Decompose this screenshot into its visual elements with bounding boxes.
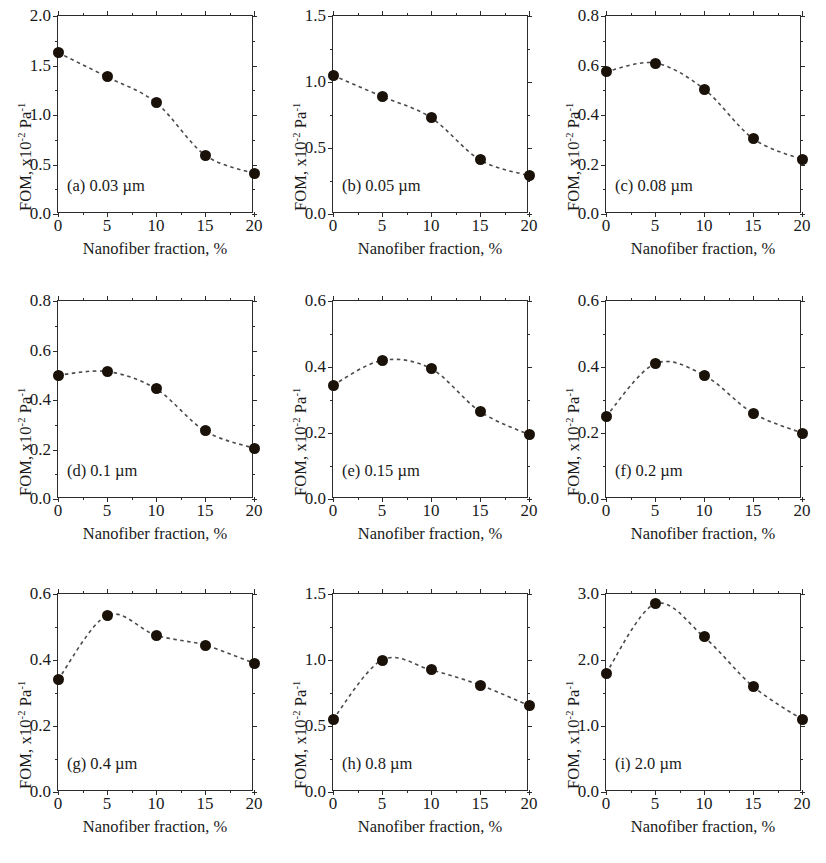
- y-axis-title-unit-exponent: -1: [291, 388, 302, 397]
- y-axis-tick: [53, 351, 58, 352]
- y-axis-tick-right: [527, 726, 532, 727]
- x-axis-minor-tick-top: [631, 13, 632, 16]
- data-point: [328, 714, 339, 725]
- x-axis-tick-label: 0: [329, 216, 338, 236]
- x-axis-tick-top: [802, 589, 803, 594]
- x-axis-minor-tick-top: [83, 591, 84, 594]
- x-axis-tick-top: [107, 589, 108, 594]
- x-axis-tick-label: 15: [745, 216, 762, 236]
- x-axis-tick-top: [606, 589, 607, 594]
- x-axis-tick-label: 10: [696, 216, 713, 236]
- x-axis-minor-tick: [407, 212, 408, 215]
- x-axis-tick-label: 5: [103, 501, 112, 521]
- x-axis-minor-tick-top: [407, 13, 408, 16]
- y-axis-title-unit-exponent: -1: [16, 103, 27, 112]
- x-axis-minor-tick-top: [680, 298, 681, 301]
- y-axis-tick-label: 0.6: [578, 56, 599, 76]
- y-axis-minor-tick: [330, 693, 333, 694]
- y-axis-tick-label: 0.4: [30, 650, 51, 670]
- x-axis-tick-label: 0: [329, 794, 338, 814]
- y-axis-title-main: FOM, x10: [16, 141, 35, 211]
- x-axis-title: Nanofiber fraction, %: [605, 239, 801, 259]
- y-axis-tick-right: [800, 66, 805, 67]
- panel-label-f: (f) 0.2 µm: [615, 461, 683, 481]
- x-axis-tick-label: 0: [602, 501, 611, 521]
- data-point: [748, 681, 759, 692]
- x-axis-minor-tick: [83, 212, 84, 215]
- chart-panel-c: FOM, x10-2 Pa-10.00.20.40.60.805101520(c…: [548, 0, 826, 285]
- x-axis-tick-label: 10: [148, 501, 165, 521]
- y-axis-tick-label: 1.0: [305, 72, 326, 92]
- y-axis-tick-right: [800, 594, 805, 595]
- x-axis-minor-tick: [358, 790, 359, 793]
- y-axis-tick: [328, 148, 333, 149]
- data-point: [200, 425, 211, 436]
- y-axis-title-exponent-units: -2: [564, 132, 575, 141]
- x-axis-tick-top: [156, 11, 157, 16]
- panel-label-g: (g) 0.4 µm: [67, 754, 137, 774]
- y-axis-title-unit: Pa: [291, 397, 310, 418]
- x-axis-tick-top: [107, 11, 108, 16]
- x-axis-tick-top: [606, 296, 607, 301]
- y-axis-minor-tick: [330, 115, 333, 116]
- y-axis-tick-right: [527, 148, 532, 149]
- y-axis-tick: [601, 433, 606, 434]
- x-axis-minor-tick-top: [230, 298, 231, 301]
- x-axis-tick-top: [382, 296, 383, 301]
- y-axis-minor-tick-right: [800, 334, 803, 335]
- x-axis-tick-label: 10: [423, 501, 440, 521]
- y-axis-title-unit-exponent: -1: [291, 681, 302, 690]
- y-axis-tick-right: [252, 351, 257, 352]
- x-axis-tick-label: 0: [54, 501, 63, 521]
- x-axis-minor-tick-top: [456, 13, 457, 16]
- y-axis-tick-right: [527, 660, 532, 661]
- y-axis-title-unit-exponent: -1: [564, 388, 575, 397]
- y-axis-minor-tick-right: [252, 425, 255, 426]
- x-axis-tick-top: [156, 296, 157, 301]
- x-axis-minor-tick-top: [680, 13, 681, 16]
- y-axis-title: FOM, x10-2 Pa-1: [291, 11, 313, 211]
- y-axis-title-unit-exponent: -1: [16, 681, 27, 690]
- y-axis-minor-tick: [603, 41, 606, 42]
- x-axis-minor-tick: [631, 212, 632, 215]
- y-axis-minor-tick: [603, 759, 606, 760]
- panel-label-e: (e) 0.15 µm: [342, 461, 420, 481]
- y-axis-tick-label: 0.0: [305, 489, 326, 509]
- data-point: [102, 71, 113, 82]
- x-axis-minor-tick-top: [358, 13, 359, 16]
- x-axis-tick-label: 20: [521, 501, 538, 521]
- data-point: [748, 408, 759, 419]
- y-axis-title-exponent-units: -2: [16, 710, 27, 719]
- y-axis-title: FOM, x10-2 Pa-1: [564, 589, 586, 789]
- x-axis-minor-tick: [680, 790, 681, 793]
- x-axis-tick-label: 0: [602, 794, 611, 814]
- y-axis-tick: [328, 82, 333, 83]
- y-axis-tick-label: 0.8: [30, 291, 51, 311]
- y-axis-tick: [601, 660, 606, 661]
- y-axis-tick-label: 1.0: [305, 650, 326, 670]
- y-axis-tick: [53, 66, 58, 67]
- y-axis-tick: [601, 594, 606, 595]
- chart-panel-i: FOM, x10-2 Pa-10.01.02.03.005101520(i) 2…: [548, 570, 826, 863]
- y-axis-minor-tick: [330, 759, 333, 760]
- x-axis-minor-tick-top: [83, 298, 84, 301]
- x-axis-minor-tick-top: [181, 13, 182, 16]
- y-axis-tick-right: [252, 16, 257, 17]
- x-axis-minor-tick: [778, 497, 779, 500]
- y-axis-title-exponent-units: -2: [291, 417, 302, 426]
- y-axis-tick-label: 0.0: [30, 489, 51, 509]
- y-axis-minor-tick: [603, 466, 606, 467]
- x-axis-tick-top: [431, 296, 432, 301]
- y-axis-title-exponent-units: -2: [564, 417, 575, 426]
- x-axis-tick-top: [431, 11, 432, 16]
- y-axis-tick: [601, 165, 606, 166]
- x-axis-minor-tick-top: [132, 298, 133, 301]
- x-axis-tick-top: [753, 589, 754, 594]
- x-axis-tick-top: [704, 11, 705, 16]
- x-axis-tick-top: [753, 296, 754, 301]
- data-point: [249, 168, 260, 179]
- y-axis-tick-right: [800, 367, 805, 368]
- data-point: [524, 429, 535, 440]
- x-axis-minor-tick: [778, 790, 779, 793]
- y-axis-title-exponent-units: -2: [16, 417, 27, 426]
